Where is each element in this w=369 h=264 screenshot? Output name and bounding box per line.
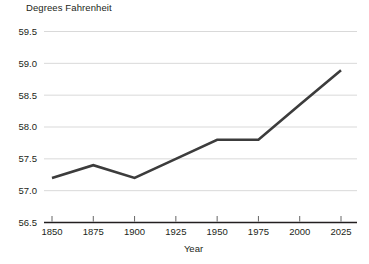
y-axis-tick-label: 57.0	[19, 185, 38, 196]
x-axis-tick-label: 1875	[83, 226, 104, 237]
y-axis-tick-label: 58.5	[19, 90, 38, 101]
x-axis-title-wrap: Year	[0, 243, 369, 254]
y-axis-tick-label: 56.5	[19, 217, 38, 228]
y-axis-tick-label: 59.0	[19, 58, 38, 69]
x-axis-tick-label: 1950	[207, 226, 228, 237]
x-axis-tick-label: 2000	[289, 226, 310, 237]
temperature-series-line	[52, 70, 341, 178]
x-axis-tick-labels: 18501875190019251950197520002025	[41, 226, 351, 237]
x-axis-tick-label: 1975	[248, 226, 269, 237]
temperature-line-chart: Degrees Fahrenheit 56.557.057.558.058.55…	[0, 0, 369, 264]
plot-area: 56.557.057.558.058.559.059.5 18501875190…	[0, 0, 369, 264]
x-axis-tick-marks	[52, 216, 341, 222]
x-axis-tick-label: 2025	[330, 226, 351, 237]
y-axis-tick-label: 58.0	[19, 121, 38, 132]
y-axis-tick-label: 57.5	[19, 153, 38, 164]
x-axis-title: Year	[166, 243, 203, 254]
y-axis-tick-labels: 56.557.057.558.058.559.059.5	[19, 26, 38, 228]
y-axis-tick-label: 59.5	[19, 26, 38, 37]
x-axis-tick-label: 1850	[41, 226, 62, 237]
x-axis-tick-label: 1925	[165, 226, 186, 237]
x-axis-tick-label: 1900	[124, 226, 145, 237]
